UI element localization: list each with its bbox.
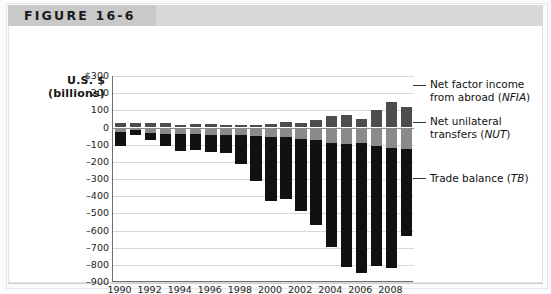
bar-segment-nfia: [326, 116, 337, 128]
y-tick-label: –600: [69, 226, 109, 236]
bar-segment-nut: [280, 128, 291, 137]
y-tick-label: 100: [69, 105, 109, 115]
bar-group-2001: [280, 76, 291, 281]
gridline: [113, 213, 414, 214]
gridline: [113, 162, 414, 163]
bar-group-1998: [235, 76, 246, 281]
bar-segment-nut: [310, 128, 321, 140]
bar-segment-nfia: [371, 110, 382, 127]
x-tick-label: 2006: [345, 284, 375, 294]
y-tick-label: –800: [69, 260, 109, 270]
bar-segment-nfia: [386, 102, 397, 127]
plot-area: [112, 76, 413, 282]
y-tick-label: –400: [69, 191, 109, 201]
bar-segment-tb: [371, 146, 382, 266]
bar-segment-nut: [386, 128, 397, 149]
legend-leader-line-tb: [413, 178, 426, 179]
bar-segment-nut: [341, 128, 352, 145]
gridline: [113, 93, 414, 94]
x-tick-label: 2004: [315, 284, 345, 294]
bar-group-2004: [326, 76, 337, 281]
y-axis-tick-labels: $3002001000–100–200–300–400–500–600–700–…: [65, 76, 109, 282]
bar-segment-nut: [220, 128, 231, 135]
bar-segment-nut: [326, 128, 337, 143]
gridline: [113, 196, 414, 197]
bar-segment-tb: [341, 144, 352, 267]
bar-group-1996: [205, 76, 216, 281]
legend-item-tb: Trade balance (TB): [430, 172, 529, 185]
bar-segment-tb: [145, 133, 156, 140]
gridline: [113, 265, 414, 266]
y-tick-label: 200: [69, 88, 109, 98]
x-axis-tick-labels: 1990199219941996199820002002200420062008: [112, 284, 413, 294]
bar-group-2005: [341, 76, 352, 281]
bar-group-1990: [115, 76, 126, 281]
bar-segment-nut: [265, 128, 276, 137]
chart-card: U.S. $ (billions) $3002001000–100–200–30…: [8, 26, 543, 283]
y-tick-label: –100: [69, 140, 109, 150]
legend-leader-line-nut: [413, 122, 426, 123]
bar-segment-nut: [295, 128, 306, 139]
bar-group-1994: [175, 76, 186, 281]
x-tick-label: 2000: [255, 284, 285, 294]
bar-group-2007: [371, 76, 382, 281]
bar-segment-nfia: [356, 119, 367, 127]
x-tick-label: 1998: [225, 284, 255, 294]
bar-segment-nut: [235, 128, 246, 136]
legend-item-nut: Net unilateraltransfers (NUT): [430, 115, 510, 140]
y-tick-label: 0: [69, 123, 109, 133]
bar-segment-tb: [190, 134, 201, 150]
gridline: [113, 145, 414, 146]
bar-segment-nut: [175, 128, 186, 135]
bar-segment-tb: [386, 148, 397, 267]
bar-group-2006: [356, 76, 367, 281]
bar-segment-tb: [310, 140, 321, 225]
bar-group-2003: [310, 76, 321, 281]
bar-segment-tb: [205, 135, 216, 153]
bar-segment-tb: [250, 136, 261, 181]
bar-segment-nut: [356, 128, 367, 144]
bar-segment-tb: [175, 134, 186, 151]
bar-segment-tb: [235, 135, 246, 163]
bar-segment-tb: [401, 149, 412, 236]
x-tick-label: 2008: [375, 284, 405, 294]
legend-label-line2-nut: transfers (NUT): [430, 128, 510, 141]
bar-group-1999: [250, 76, 261, 281]
x-tick-label: 1990: [105, 284, 135, 294]
gridline: [113, 179, 414, 180]
figure-label: FIGURE 16-6: [24, 8, 136, 23]
bar-group-1993: [160, 76, 171, 281]
bar-group-2008: [386, 76, 397, 281]
bar-segment-tb: [130, 130, 141, 135]
y-tick-label: –900: [69, 277, 109, 287]
gridline: [113, 110, 414, 111]
bar-segment-nfia: [341, 115, 352, 127]
y-tick-label: –500: [69, 208, 109, 218]
legend-label-line1-nut: Net unilateral: [430, 115, 510, 128]
legend-item-nfia: Net factor incomefrom abroad (NFIA): [430, 78, 530, 103]
gridline: [113, 231, 414, 232]
bar-segment-nut: [205, 128, 216, 135]
bar-segment-tb: [160, 134, 171, 146]
bar-group-1991: [130, 76, 141, 281]
bar-segment-nfia: [310, 120, 321, 128]
bar-segment-nut: [371, 128, 382, 146]
bar-segment-tb: [326, 143, 337, 248]
gridline: [113, 282, 414, 283]
x-tick-label: 2002: [285, 284, 315, 294]
bar-group-1995: [190, 76, 201, 281]
bar-segment-tb: [115, 132, 126, 146]
legend-leader-line-nfia: [413, 85, 426, 86]
zero-axis-line: [113, 128, 414, 129]
bar-group-2009: [401, 76, 412, 281]
gridline: [113, 76, 414, 77]
legend-label-line1-tb: Trade balance (TB): [430, 172, 529, 185]
bar-group-1992: [145, 76, 156, 281]
bar-group-1997: [220, 76, 231, 281]
bar-segment-tb: [220, 135, 231, 154]
figure-container: FIGURE 16-6 U.S. $ (billions) $300200100…: [0, 0, 551, 294]
y-tick-label: –200: [69, 157, 109, 167]
y-tick-label: $300: [69, 71, 109, 81]
bar-group-2002: [295, 76, 306, 281]
y-tick-label: –700: [69, 243, 109, 253]
